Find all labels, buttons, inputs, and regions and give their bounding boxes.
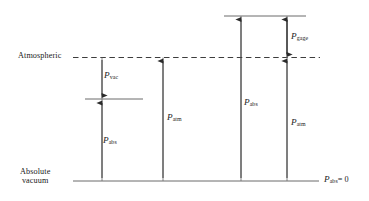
p-atm-1-subscript: atm — [173, 116, 182, 122]
p-abs-zero-subscript: abs — [330, 178, 338, 184]
p-abs-2-subscript: abs — [250, 101, 258, 107]
p-atm-2-label: Patm — [291, 118, 306, 128]
atmospheric-label: Atmospheric — [18, 52, 61, 61]
p-vac-subscript: vac — [110, 74, 118, 80]
p-abs-2-label: Pabs — [244, 98, 258, 108]
p-abs-zero-value: = 0 — [338, 175, 349, 184]
absolute-vacuum-label-line2: vacuum — [20, 177, 50, 186]
p-abs-1-subscript: abs — [109, 139, 117, 145]
p-gage-subscript: gage — [297, 35, 309, 41]
p-abs-1-label: Pabs — [103, 136, 117, 146]
p-atm-1-label: Patm — [167, 113, 182, 123]
diagram-canvas — [0, 0, 369, 201]
p-abs-zero-label: Pabs= 0 — [324, 175, 349, 185]
absolute-vacuum-label: Absolute vacuum — [20, 168, 50, 186]
p-atm-2-subscript: atm — [297, 121, 306, 127]
p-gage-label: Pgage — [291, 32, 308, 42]
p-vac-label: Pvac — [104, 71, 118, 81]
pressure-level-diagram: Atmospheric Absolute vacuum Pvac Pabs Pa… — [0, 0, 369, 201]
